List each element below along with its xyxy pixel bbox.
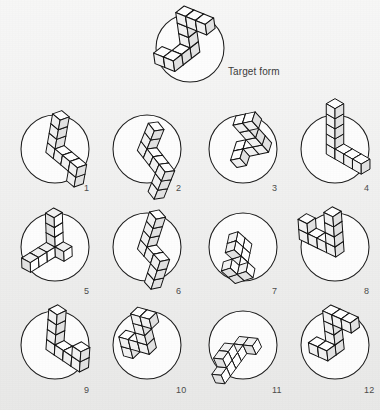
option-circle-5[interactable] bbox=[19, 211, 91, 283]
option-circle-3[interactable] bbox=[207, 113, 279, 185]
option-circle-10[interactable] bbox=[111, 309, 183, 381]
option-number-label-11: 11 bbox=[272, 385, 282, 395]
option-circle-11[interactable] bbox=[207, 309, 279, 381]
option-circle-12[interactable] bbox=[299, 309, 371, 381]
option-circle-7[interactable] bbox=[207, 211, 279, 283]
target-form-circle[interactable] bbox=[154, 12, 226, 84]
option-number-label-4: 4 bbox=[364, 183, 369, 193]
option-number-label-7: 7 bbox=[272, 286, 277, 296]
option-circle-4[interactable] bbox=[299, 113, 371, 185]
option-number-label-6: 6 bbox=[176, 286, 181, 296]
worksheet-canvas: Target form 123456789101112 bbox=[0, 0, 380, 410]
option-number-label-2: 2 bbox=[176, 183, 181, 193]
option-number-label-10: 10 bbox=[176, 385, 186, 395]
option-number-label-9: 9 bbox=[84, 385, 89, 395]
option-circle-2[interactable] bbox=[111, 113, 183, 185]
option-number-label-8: 8 bbox=[364, 286, 369, 296]
option-circle-9[interactable] bbox=[19, 309, 91, 381]
option-number-label-3: 3 bbox=[272, 183, 277, 193]
option-circle-6[interactable] bbox=[111, 211, 183, 283]
option-circle-1[interactable] bbox=[19, 113, 91, 185]
option-number-label-1: 1 bbox=[84, 183, 89, 193]
option-number-label-12: 12 bbox=[364, 385, 374, 395]
option-circle-8[interactable] bbox=[299, 211, 371, 283]
option-number-label-5: 5 bbox=[84, 286, 89, 296]
target-form-label: Target form bbox=[228, 66, 280, 77]
